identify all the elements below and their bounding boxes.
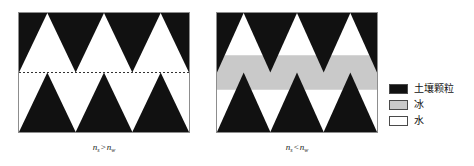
legend-swatch-water-icon	[389, 116, 408, 126]
legend-label-ice: 冰	[414, 99, 424, 111]
caption-relation: <	[293, 142, 300, 152]
unfrozen-panel-caption: ns>nw	[18, 141, 190, 154]
caption-subscript-right: w	[111, 147, 115, 153]
frozen-panel-caption: ns<nw	[216, 141, 378, 154]
caption-subscript-right: w	[304, 147, 308, 153]
unfrozen-soil-panel	[18, 12, 190, 133]
caption-subscript-left: s	[97, 147, 99, 153]
legend: 土壤颗粒 冰 水	[389, 81, 474, 129]
legend-item-ice: 冰	[389, 97, 474, 113]
legend-item-water: 水	[389, 113, 474, 129]
frozen-soil-panel	[216, 12, 378, 133]
legend-label-soil-particle: 土壤颗粒	[414, 83, 454, 95]
legend-item-soil-particle: 土壤颗粒	[389, 81, 474, 97]
figure-root: ns>nw ns<nw 土壤颗粒 冰 水	[0, 0, 474, 166]
legend-swatch-soil-particle-icon	[389, 84, 408, 94]
caption-relation: >	[100, 142, 107, 152]
caption-subscript-left: s	[290, 147, 292, 153]
legend-label-water: 水	[414, 115, 424, 127]
legend-swatch-ice-icon	[389, 100, 408, 110]
frozen-soil-diagram	[217, 13, 377, 132]
unfrozen-soil-diagram	[19, 13, 189, 132]
